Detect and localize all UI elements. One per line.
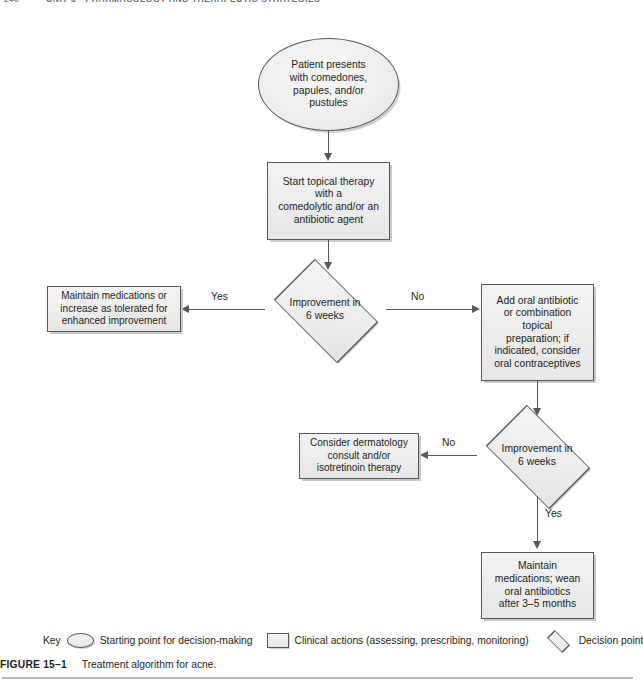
node-dermatology-consult-label: Consider dermatology consult and/or isot… (305, 437, 413, 475)
legend-item-starting-point-label: Starting point for decision-making (100, 635, 253, 646)
figure-number: FIGURE 15–1 (0, 659, 67, 670)
caption-rule (2, 677, 633, 679)
legend-item-decision-point: Decision point (543, 632, 643, 648)
node-decision-two: Improvement in 6 weeks (476, 416, 598, 495)
legend-item-clinical-actions-label: Clinical actions (assessing, prescribing… (295, 635, 529, 646)
node-start-label: Patient presents with comedones, papules… (285, 59, 372, 109)
edge-label-yes-one: Yes (211, 291, 228, 303)
diamond-shape-icon (543, 632, 573, 648)
figure-caption: FIGURE 15–1 Treatment algorithm for acne… (0, 658, 635, 672)
arrowhead-decision-one-yes (181, 305, 189, 313)
connector-decision-one-no (386, 309, 473, 310)
connector-decision-two-yes (537, 495, 538, 543)
node-decision-one-label: Improvement in 6 weeks (285, 297, 366, 322)
node-dermatology-consult: Consider dermatology consult and/or isot… (299, 433, 419, 479)
node-start-oval: Patient presents with comedones, papules… (258, 38, 399, 131)
connector-decision-one-yes (189, 309, 265, 310)
node-maintain-wean: Maintain medications; wean oral antibiot… (481, 552, 594, 619)
node-add-oral-antibiotic: Add oral antibiotic or combination topic… (481, 284, 594, 381)
node-topical-therapy-label: Start topical therapy with a comedolytic… (273, 176, 384, 226)
node-maintain-increase: Maintain medications or increase as tole… (47, 286, 181, 332)
node-maintain-wean-label: Maintain medications; wean oral antibiot… (490, 560, 585, 610)
edge-label-yes-two: Yes (545, 508, 562, 520)
flowchart-canvas: Patient presents with comedones, papules… (0, 0, 635, 625)
node-maintain-increase-label: Maintain medications or increase as tole… (55, 290, 172, 328)
figure-caption-text: Treatment algorithm for acne. (82, 659, 217, 670)
rectangle-shape-icon (267, 633, 289, 648)
edge-label-no-two: No (442, 437, 455, 449)
legend-item-clinical-actions: Clinical actions (assessing, prescribing… (267, 633, 529, 648)
node-decision-one: Improvement in 6 weeks (264, 270, 386, 349)
edge-label-no-one: No (411, 291, 424, 303)
legend-item-starting-point: Starting point for decision-making (67, 633, 253, 648)
oval-shape-icon (67, 633, 94, 648)
legend: Key Starting point for decision-making C… (0, 628, 635, 652)
arrowhead-start-to-topical (324, 153, 332, 161)
connector-antibiotic-to-decision-two (537, 381, 538, 410)
arrowhead-decision-one-no (472, 305, 480, 313)
node-decision-two-label: Improvement in 6 weeks (497, 443, 578, 468)
connector-decision-two-no (428, 455, 477, 456)
node-add-oral-antibiotic-label: Add oral antibiotic or combination topic… (489, 295, 585, 371)
arrowhead-decision-two-yes (533, 541, 541, 549)
node-topical-therapy: Start topical therapy with a comedolytic… (267, 162, 390, 240)
connector-topical-to-decision-one (328, 240, 329, 264)
legend-item-decision-point-label: Decision point (579, 635, 643, 646)
connector-start-to-topical (328, 131, 329, 155)
diamond-shape-icon-face (547, 629, 570, 652)
legend-title: Key (43, 635, 61, 646)
arrowhead-decision-two-no (420, 451, 428, 459)
